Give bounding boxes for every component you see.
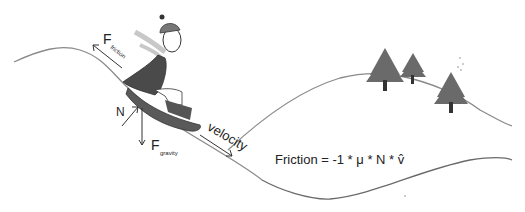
gravity-arrow (139, 108, 145, 145)
hill-curve-right (228, 74, 512, 150)
gravity-label: F (151, 138, 160, 152)
normal-force-label: N (116, 106, 125, 118)
diagram-canvas: F friction N F gravity velocity Friction… (0, 0, 525, 212)
pine-tree-2 (400, 53, 426, 84)
friction-label: F (103, 32, 112, 46)
hill-curve-left (14, 48, 262, 180)
snowboarder (123, 15, 201, 132)
gravity-subscript: gravity (160, 150, 178, 156)
pine-tree-1 (366, 48, 404, 91)
friction-formula: Friction = -1 * μ * N * v̂ (275, 153, 404, 166)
scene-illustration (0, 0, 525, 212)
pine-tree-3 (434, 72, 468, 113)
